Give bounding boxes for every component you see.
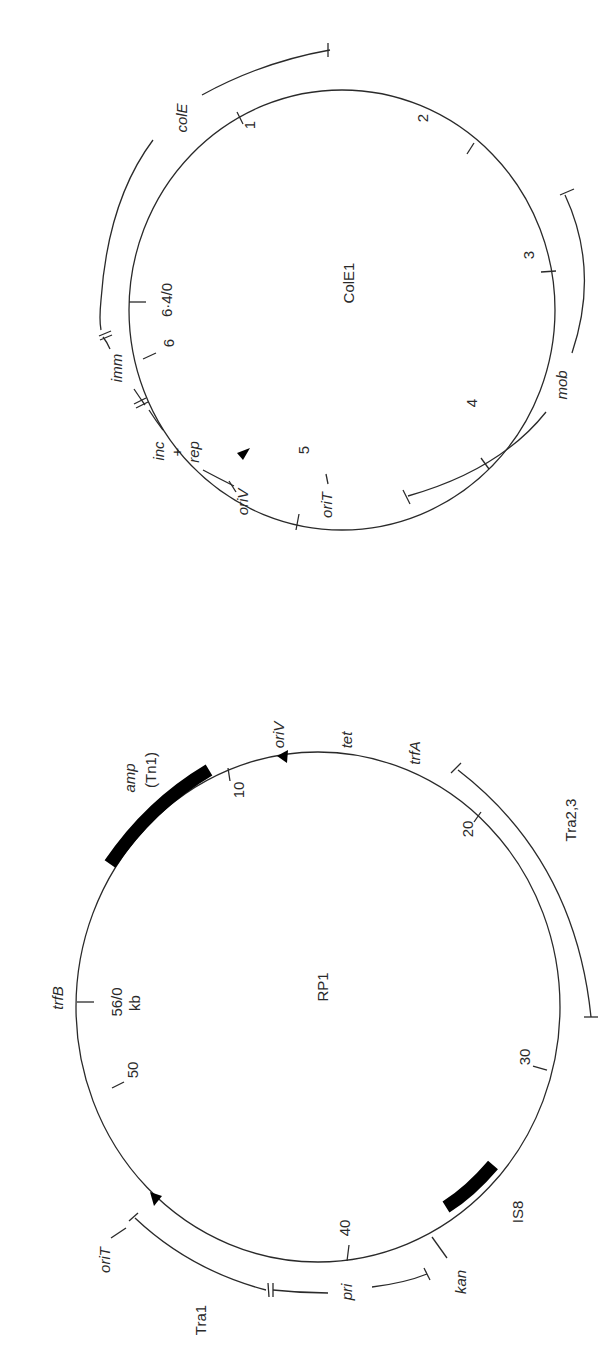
rp1-oriT-arrow-icon	[150, 1192, 162, 1206]
rp1-pri-arc-left	[273, 1290, 328, 1293]
cole1-mob-end-lower	[403, 490, 410, 504]
cole1-break-2	[100, 335, 112, 340]
cole1-oriT-label: oriT	[318, 490, 335, 518]
rp1-origin-label: 56/0	[108, 987, 125, 1016]
rp1-break-1	[268, 1283, 269, 1297]
cole1-tick-label-1: 1	[241, 121, 258, 129]
rp1-oriV-arrow-icon	[277, 750, 288, 763]
cole1-oriV-arrow-icon	[237, 448, 250, 460]
rp1-Tra1-arc	[135, 1218, 266, 1290]
cole1-mob-arc-upper	[565, 195, 584, 353]
cole1-tick-3	[541, 271, 556, 272]
rp1-oriT-leader	[111, 1228, 126, 1238]
cole1-rep-arc	[203, 470, 234, 486]
rp1-kan-label: kan	[452, 1270, 469, 1294]
cole1-tick-label-3: 3	[520, 251, 537, 259]
rp1-oriT-label: oriT	[96, 1245, 113, 1273]
cole1-origin-label: 6·4/0	[158, 283, 175, 317]
cole1-mob-label: mob	[553, 370, 570, 399]
rp1-tick-label-20: 20	[459, 821, 476, 838]
rp1-trfB-label: trfB	[49, 986, 66, 1009]
cole1-map: 6·4/0 1 2 3 4 5 6 ColE1 colE imm inc + r…	[99, 43, 584, 530]
cole1-tick-5	[296, 514, 299, 530]
rp1-Tra23-label: Tra2,3	[562, 799, 579, 842]
cole1-name-label: ColE1	[340, 263, 357, 304]
rp1-trfA-label: trfA	[406, 741, 423, 764]
cole1-tick-6	[143, 353, 156, 359]
cole1-tick-label-2: 2	[414, 114, 431, 122]
rp1-tick-30	[533, 1066, 547, 1070]
cole1-inc-arc	[149, 410, 163, 430]
rp1-Tra1-label: Tra1	[192, 1305, 209, 1335]
rp1-pri-end	[424, 1268, 430, 1280]
cole1-tick-label-5: 5	[295, 446, 312, 454]
rp1-kan-leader	[432, 1237, 447, 1258]
cole1-mob-arc-lower	[408, 412, 546, 496]
rp1-pri-arc-right	[372, 1274, 427, 1287]
rp1-tick-40	[347, 1245, 349, 1261]
rp1-IS8-label: IS8	[509, 1201, 526, 1224]
cole1-tick-label-6: 6	[160, 339, 177, 347]
cole1-inc-label: inc	[150, 441, 167, 461]
cole1-break-4	[136, 402, 148, 408]
rp1-Tn1-label: (Tn1)	[142, 752, 159, 788]
rp1-pri-label: pri	[338, 1283, 355, 1301]
rp1-tick-label-40: 40	[336, 1220, 353, 1237]
rp1-tick-50	[112, 1082, 124, 1088]
rp1-unit-label: kb	[126, 995, 143, 1011]
cole1-tick-2	[467, 143, 474, 154]
cole1-tick-label-4: 4	[463, 399, 480, 407]
cole1-plus-label: +	[168, 447, 185, 456]
cole1-oriV-label: oriV	[234, 487, 251, 516]
cole1-colE-arc-right	[202, 50, 330, 95]
rp1-circle	[76, 752, 560, 1262]
cole1-circle	[129, 90, 555, 530]
cole1-oriT-leader	[326, 474, 328, 484]
plasmid-maps-figure: 6·4/0 1 2 3 4 5 6 ColE1 colE imm inc + r…	[0, 0, 605, 1356]
rp1-tick-label-10: 10	[230, 782, 247, 799]
rp1-name-label: RP1	[314, 972, 331, 1001]
cole1-imm-label: imm	[108, 354, 125, 382]
rp1-tick-label-50: 50	[124, 1062, 141, 1079]
rp1-oriV-label: oriV	[270, 720, 287, 749]
rp1-IS8-block	[446, 1165, 493, 1207]
cole1-break-1	[99, 331, 111, 336]
rp1-map: 56/0 kb 10 20 30 40 50 RP1 amp (Tn1) ori…	[49, 720, 598, 1335]
cole1-rep-label: rep	[185, 441, 202, 463]
cole1-mob-end-upper	[560, 189, 574, 195]
rp1-tick-label-30: 30	[516, 1049, 533, 1066]
rp1-amp-label: amp	[121, 763, 138, 792]
cole1-colE-label: colE	[173, 102, 190, 132]
rp1-tet-label: tet	[338, 731, 355, 749]
